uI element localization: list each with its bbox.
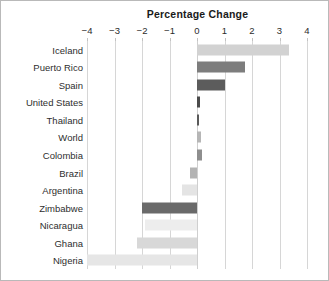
x-tick-label-0: 0 (194, 25, 199, 36)
bar-colombia (197, 149, 202, 160)
x-tick-label-2: 2 (249, 25, 254, 36)
x-tick-label-3: 3 (277, 25, 282, 36)
plot-area (87, 41, 307, 269)
bar-nicaragua (145, 220, 197, 231)
gridline-4 (307, 41, 308, 269)
category-label-brazil: Brazil (1, 167, 83, 178)
bar-iceland (197, 44, 289, 55)
bar-zimbabwe (142, 202, 197, 213)
bar-row (87, 146, 307, 164)
category-label-world: World (1, 132, 83, 143)
bar-row (87, 59, 307, 77)
bar-row (87, 129, 307, 147)
bar-thailand (197, 114, 199, 125)
category-label-zimbabwe: Zimbabwe (1, 202, 83, 213)
bar-row (87, 216, 307, 234)
x-tick-label-1: 1 (222, 25, 227, 36)
bar-series (87, 41, 307, 269)
category-label-nigeria: Nigeria (1, 255, 83, 266)
bar-row (87, 164, 307, 182)
category-label-nicaragua: Nicaragua (1, 220, 83, 231)
category-label-ghana: Ghana (1, 237, 83, 248)
bar-spain (197, 79, 225, 90)
x-tick-label--2: −2 (137, 25, 148, 36)
category-label-spain: Spain (1, 79, 83, 90)
bar-ghana (137, 237, 198, 248)
x-tick-label--1: −1 (164, 25, 175, 36)
category-label-argentina: Argentina (1, 185, 83, 196)
bar-world (197, 132, 201, 143)
x-axis-ticks: −4−3−2−101234 (87, 25, 307, 39)
category-label-puerto-rico: Puerto Rico (1, 62, 83, 73)
x-tick-label--4: −4 (82, 25, 93, 36)
bar-row (87, 181, 307, 199)
bar-row (87, 199, 307, 217)
bar-row (87, 41, 307, 59)
chart-title: Percentage Change (87, 8, 308, 20)
bar-row (87, 76, 307, 94)
bar-row (87, 94, 307, 112)
bar-row (87, 111, 307, 129)
bar-row (87, 251, 307, 269)
category-axis-labels: IcelandPuerto RicoSpainUnited StatesThai… (1, 41, 83, 269)
chart-figure: Percentage Change −4−3−2−101234 IcelandP… (0, 0, 329, 281)
x-tick-label-4: 4 (304, 25, 309, 36)
x-tick-label--3: −3 (109, 25, 120, 36)
bar-row (87, 234, 307, 252)
bar-puerto-rico (197, 62, 245, 73)
bar-united-states (197, 97, 200, 108)
category-label-united-states: United States (1, 97, 83, 108)
bar-argentina (182, 185, 197, 196)
category-label-iceland: Iceland (1, 44, 83, 55)
category-label-colombia: Colombia (1, 150, 83, 161)
bar-brazil (190, 167, 197, 178)
category-label-thailand: Thailand (1, 114, 83, 125)
bar-nigeria (87, 255, 197, 266)
